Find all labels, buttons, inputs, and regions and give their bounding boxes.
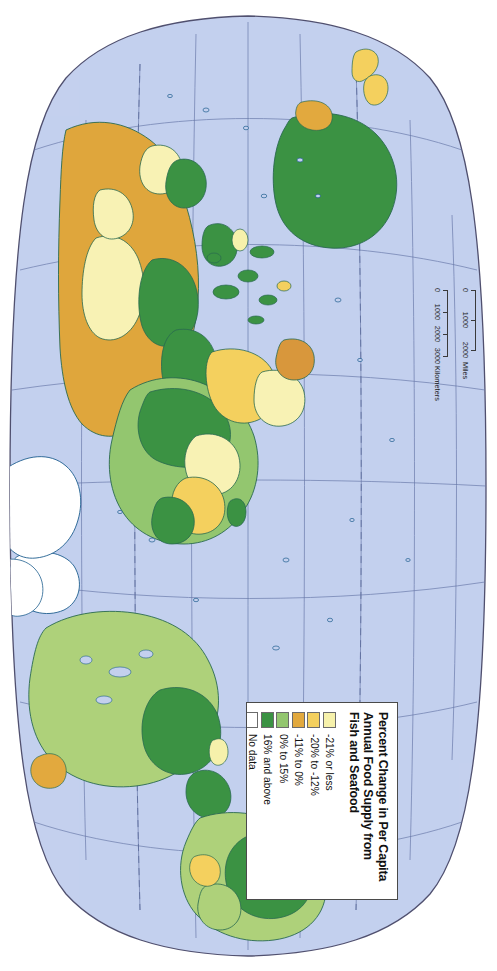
scale-tick-mi-1000: 1000 <box>461 312 470 328</box>
legend-label: -21% or less <box>324 734 334 791</box>
legend-swatch <box>323 712 336 728</box>
scale-bars: 0 1000 2000 Miles 0 1000 2000 3000 Kilom… <box>414 286 486 392</box>
scale-tick-mi-0: 0 <box>461 288 470 292</box>
legend-label: 0% to 15% <box>278 734 288 783</box>
scale-tick-km-2000: 2000 <box>433 326 442 342</box>
legend-item: 0% to 15% <box>275 712 291 893</box>
legend-swatch <box>276 712 289 728</box>
legend-swatch <box>307 712 320 728</box>
map-legend: Percent Change in Per Capita Annual Food… <box>246 702 398 900</box>
map-page: 0 1000 2000 Miles 0 1000 2000 3000 Kilom… <box>0 0 497 971</box>
legend-item: -20% to -12% <box>306 712 322 893</box>
scale-tick-mi-2000: 2000 <box>461 342 470 358</box>
legend-swatch <box>246 712 258 728</box>
scale-unit-kilometers: Kilometers <box>433 366 442 401</box>
legend-title: Percent Change in Per Capita Annual Food… <box>346 712 390 893</box>
legend-swatch <box>292 712 305 728</box>
legend-entries: -21% or less -20% to -12% -11% to 0% 0% … <box>246 712 337 893</box>
legend-item: No data <box>246 712 260 893</box>
legend-label: No data <box>247 734 257 770</box>
scale-tick-km-1000: 1000 <box>433 304 442 320</box>
scale-unit-miles: Miles <box>461 362 470 379</box>
legend-label: 16% and above <box>262 734 272 805</box>
legend-item: -11% to 0% <box>291 712 307 893</box>
legend-label: -11% to 0% <box>293 734 303 786</box>
scale-tick-km-0: 0 <box>433 288 442 292</box>
legend-label: -20% to -12% <box>309 734 319 796</box>
legend-item: -21% or less <box>322 712 338 893</box>
legend-item: 16% and above <box>260 712 276 893</box>
legend-swatch <box>261 712 274 728</box>
scale-tick-km-3000: 3000 <box>433 348 442 364</box>
